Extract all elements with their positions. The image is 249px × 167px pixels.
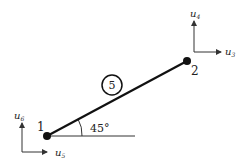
element-label: 5 [109, 79, 116, 92]
u3-label: u3 [225, 46, 235, 58]
node-1-label: 1 [37, 120, 45, 134]
angle-label: 45° [90, 122, 110, 135]
truss-element-diagram: 5 1 2 45° u4 u3 u6 u5 [0, 0, 249, 167]
node-2 [183, 57, 191, 65]
u4-label: u4 [190, 8, 200, 20]
angle-arc [78, 119, 82, 136]
u5-label: u5 [55, 147, 65, 159]
node-2-label: 2 [191, 64, 199, 78]
u6-label: u6 [14, 110, 24, 122]
element-bar [47, 61, 187, 136]
